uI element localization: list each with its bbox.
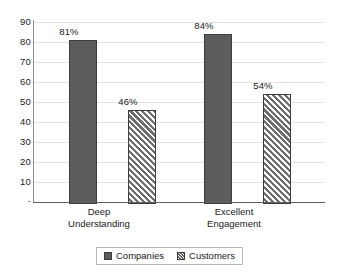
category-label-line: Excellent: [179, 206, 289, 218]
bar-customers-excellent-engagement: [263, 94, 291, 204]
y-tick-label: 70: [3, 57, 31, 67]
bar-chart: 90 80 70 60 50 40 30 20 10 - 81% 46% 84%…: [0, 0, 337, 279]
x-axis-baseline: [33, 202, 325, 203]
gridline: [34, 22, 325, 23]
legend-swatch-icon: [104, 252, 112, 260]
data-label-customers-deep-understanding: 46%: [108, 96, 148, 107]
legend-label: Customers: [189, 250, 235, 261]
category-label-line: Deep: [44, 206, 154, 218]
y-tick-label: 60: [3, 77, 31, 87]
plot-area: [34, 20, 325, 204]
category-label-excellent-engagement: Excellent Engagement: [179, 206, 289, 230]
legend-label: Companies: [116, 250, 164, 261]
category-label-line: Understanding: [44, 218, 154, 230]
category-label-deep-understanding: Deep Understanding: [44, 206, 154, 230]
y-tick-label-zero: -: [3, 196, 31, 206]
bar-companies-excellent-engagement: [204, 34, 232, 204]
legend-entry-customers: Customers: [177, 250, 235, 261]
y-tick-label: 40: [3, 117, 31, 127]
category-label-line: Engagement: [179, 218, 289, 230]
legend-entry-companies: Companies: [104, 250, 164, 261]
data-label-companies-excellent-engagement: 84%: [184, 20, 224, 31]
chart-legend: Companies Customers: [96, 247, 243, 265]
data-label-companies-deep-understanding: 81%: [49, 26, 89, 37]
data-label-customers-excellent-engagement: 54%: [243, 80, 283, 91]
bar-companies-deep-understanding: [69, 40, 97, 204]
y-tick-label: 50: [3, 97, 31, 107]
y-tick-label: 80: [3, 37, 31, 47]
y-tick-label: 90: [3, 17, 31, 27]
y-tick-label: 20: [3, 157, 31, 167]
y-axis-line: [33, 20, 34, 203]
y-axis-tick-labels: 90 80 70 60 50 40 30 20 10 -: [0, 0, 31, 279]
y-tick-label: 10: [3, 177, 31, 187]
bar-customers-deep-understanding: [128, 110, 156, 204]
legend-swatch-icon: [177, 252, 185, 260]
y-tick-label: 30: [3, 137, 31, 147]
